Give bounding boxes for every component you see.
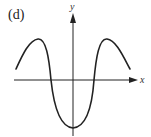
x-axis-arrow-icon — [129, 77, 138, 83]
panel-label: (d) — [8, 8, 24, 22]
y-axis-arrow-icon — [70, 13, 76, 23]
y-axis-label: y — [70, 2, 74, 12]
function-graph-figure: (d) y x — [0, 0, 151, 137]
x-axis-label: x — [140, 75, 144, 85]
